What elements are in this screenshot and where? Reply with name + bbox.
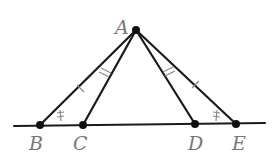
segment-ab xyxy=(40,30,136,125)
angle-mark-e xyxy=(213,110,220,121)
double-tick-mark-ac xyxy=(99,68,111,77)
point-d xyxy=(191,120,199,128)
point-c xyxy=(79,121,87,129)
segment-ac xyxy=(83,30,136,125)
label-c: C xyxy=(73,132,88,154)
point-e xyxy=(232,120,240,128)
angle-mark-b xyxy=(57,110,64,121)
label-e: E xyxy=(231,132,246,154)
point-b xyxy=(36,121,44,129)
point-a xyxy=(132,26,140,34)
geometry-diagram: A B C D E xyxy=(0,0,275,167)
base-line xyxy=(14,123,265,126)
label-a: A xyxy=(113,16,129,38)
label-d: D xyxy=(187,132,203,154)
label-b: B xyxy=(28,132,43,154)
